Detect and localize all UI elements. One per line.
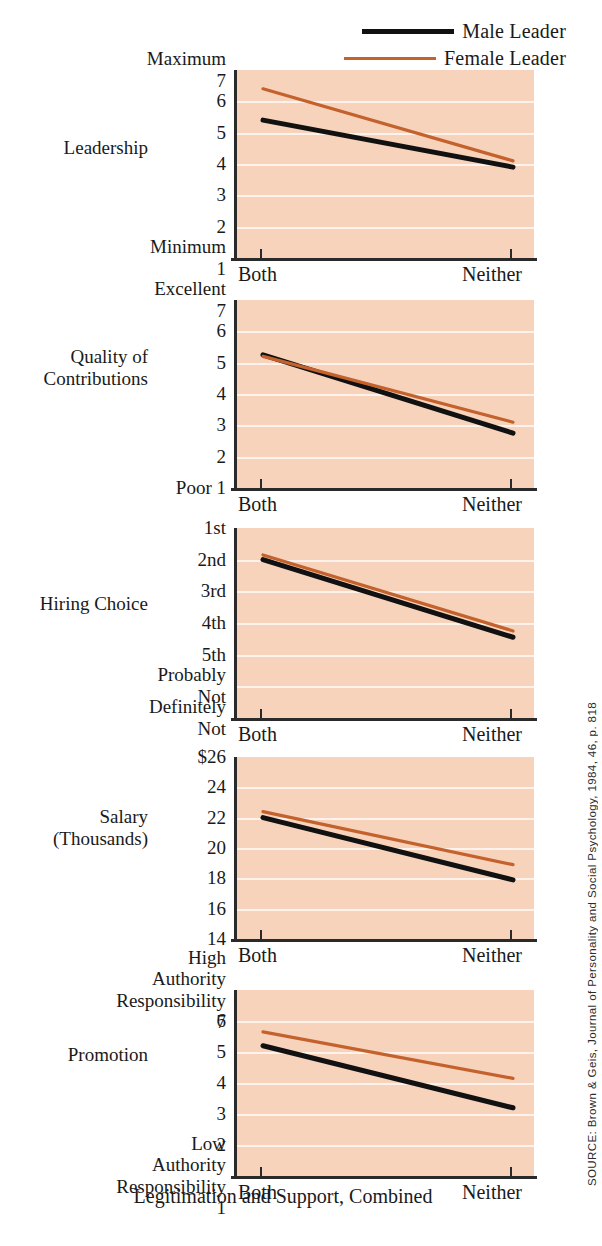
legend-label-female: Female Leader [444,47,566,70]
source-credit: SOURCE: Brown & Geis, Journal of Persona… [576,716,598,1186]
series-line-male [263,560,513,638]
x-axis-line [231,488,537,491]
y-axis-tick-label: 6 [217,90,227,112]
y-axis-tick-labels: Maximum 765432Minimum 1 [150,70,232,258]
x-axis-line [231,1176,537,1179]
y-axis-tick-label: 4 [217,153,227,175]
y-axis-tick-label: High Authority Responsibility 7 [116,947,226,1032]
y-axis-tick-label: 3 [217,1103,227,1125]
y-axis-tick-label: 3rd [201,580,226,602]
plot-area [234,757,534,939]
y-axis-tick-labels: $26242220181614 [150,757,232,939]
y-axis-tick-label: 2 [217,446,227,468]
y-axis-tick-label: 22 [207,807,226,829]
y-axis-tick-label: 5 [217,1041,227,1063]
y-axis-tick-labels: 1st2nd3rd4th5thProbably NotDefinitely No… [150,528,232,718]
x-axis-line [231,258,537,261]
y-axis-tick-label: 6 [217,320,227,342]
y-axis-tick-label: Maximum 7 [147,48,226,92]
y-axis-tick-label: 2 [217,216,227,238]
x-axis-tick [260,479,262,488]
y-axis-tick-label: 16 [207,898,226,920]
series-line-female [263,812,513,865]
x-axis-tick [510,709,512,718]
x-axis-title: Legitimation and Support, Combined [0,1185,566,1208]
y-axis-tick-label: 4 [217,383,227,405]
panel-row-label: Quality of Contributions [0,346,148,390]
x-category-neither: Neither [462,263,522,286]
y-axis-tick-label: Excellent 7 [150,278,226,322]
x-category-neither: Neither [462,493,522,516]
legend-label-male: Male Leader [462,20,566,43]
x-axis-tick [260,709,262,718]
x-category-neither: Neither [462,944,522,967]
y-axis-tick-label: 5 [217,122,227,144]
y-axis-tick-label: 5th [202,644,226,666]
plot-area [234,70,534,258]
data-lines [237,300,537,488]
y-axis-tick-label: Minimum 1 [150,236,226,280]
x-axis-tick [510,249,512,258]
y-axis-tick-label: Definitely Not [149,696,226,740]
legend-item-female: Female Leader [0,45,566,72]
data-lines [237,70,537,258]
panel-row-label: Leadership [0,137,148,159]
source-credit-text: SOURCE: Brown & Geis, Journal of Persona… [586,702,598,1186]
y-axis-tick-label: 3 [217,184,227,206]
x-axis-line [231,939,537,942]
data-lines [237,528,537,718]
plot-area [234,990,534,1176]
chart-legend: Male Leader Female Leader [0,18,566,72]
x-axis-tick [510,1167,512,1176]
x-axis-tick [510,479,512,488]
y-axis-tick-label: 6 [217,1010,227,1032]
series-line-male [263,120,513,167]
x-axis-tick [260,930,262,939]
y-axis-tick-labels: Excellent 765432Poor 1 [150,300,232,488]
panel-row-label: Hiring Choice [0,593,148,615]
y-axis-tick-label: 5 [217,352,227,374]
y-axis-tick-label: 18 [207,867,226,889]
y-axis-tick-label: 1st [204,517,226,539]
x-axis-tick [510,930,512,939]
panel-row-label: Salary (Thousands) [0,806,148,850]
y-axis-tick-label: 4th [202,612,226,634]
legend-item-male: Male Leader [0,18,566,45]
x-axis-line [231,718,537,721]
y-axis-tick-label: $26 [198,746,227,768]
x-category-both: Both [238,723,277,746]
data-lines [237,990,537,1176]
x-axis-tick [260,1167,262,1176]
y-axis-tick-label: 3 [217,414,227,436]
series-line-female [263,555,513,631]
data-lines [237,757,537,939]
legend-line-swatch-male-icon [362,29,454,34]
x-category-both: Both [238,493,277,516]
y-axis-tick-label: 2nd [198,549,227,571]
x-category-neither: Neither [462,723,522,746]
x-category-both: Both [238,944,277,967]
y-axis-tick-label: 24 [207,776,226,798]
legend-line-swatch-female-icon [344,57,436,60]
series-line-female [263,356,513,422]
y-axis-tick-label: Poor 1 [176,477,226,499]
panel-row-label: Promotion [0,1044,148,1066]
y-axis-tick-label: 4 [217,1072,227,1094]
y-axis-tick-labels: High Authority Responsibility 765432Low … [150,990,232,1176]
x-axis-tick [260,249,262,258]
series-line-male [263,818,513,880]
y-axis-tick-label: 20 [207,837,226,859]
plot-area [234,300,534,488]
x-category-both: Both [238,263,277,286]
plot-area [234,528,534,718]
